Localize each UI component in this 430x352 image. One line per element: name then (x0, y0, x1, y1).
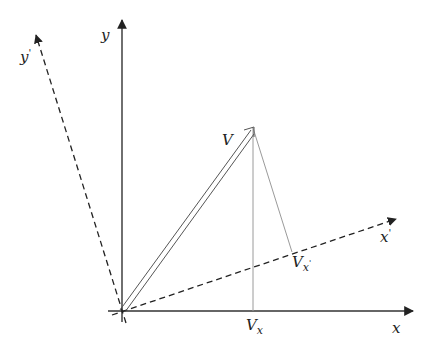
projection-line-x-prime (253, 128, 292, 252)
vx-label: Vx (246, 316, 264, 337)
x-prime-label: x' (380, 227, 391, 246)
vector-label: V (222, 131, 235, 149)
rotated-axes-diagram: y y' x x' V Vx Vx' (0, 0, 430, 352)
y-prime-label: y' (19, 47, 31, 66)
vx-prime-label: Vx' (292, 253, 311, 274)
vector-v (120, 127, 254, 312)
y-prime-axis (36, 35, 126, 323)
y-axis-label: y (100, 26, 110, 44)
x-prime-axis (112, 219, 396, 315)
x-axis-label: x (392, 319, 401, 337)
